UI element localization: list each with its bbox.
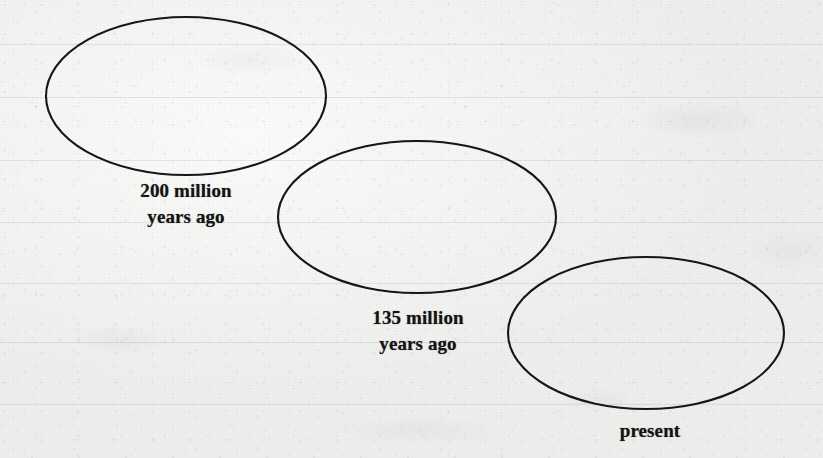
time-label-line: years ago: [352, 331, 484, 357]
landmass-ellipse-2: [278, 141, 556, 293]
landmass-ellipse-1: [46, 17, 326, 175]
time-label-line: years ago: [120, 204, 252, 230]
figure-page: 200 millionyears ago135 millionyears ago…: [0, 0, 823, 458]
landmass-ellipse-3: [508, 257, 784, 409]
time-label-line: present: [606, 418, 694, 444]
time-label-line: 135 million: [352, 305, 484, 331]
time-label-200-million: 200 millionyears ago: [120, 178, 252, 230]
time-label-135-million: 135 millionyears ago: [352, 305, 484, 357]
time-label-present: present: [606, 418, 694, 444]
time-label-line: 200 million: [120, 178, 252, 204]
